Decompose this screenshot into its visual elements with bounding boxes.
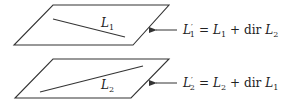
equation-plane-2: L′2=L2+dirL1 bbox=[182, 75, 278, 92]
plane-1: L1 L′1=L1+dirL2 bbox=[14, 5, 278, 45]
line-l1 bbox=[53, 19, 125, 37]
line-l1-label: L1 bbox=[100, 16, 114, 32]
plane-1-parallelogram bbox=[14, 5, 169, 45]
equation-plane-1: L′1=L1+dirL2 bbox=[182, 22, 278, 39]
line-l2-label: L2 bbox=[100, 78, 114, 94]
line-l2 bbox=[40, 66, 143, 92]
plane-2: L2 L′2=L2+dirL1 bbox=[15, 59, 278, 98]
planes-diagram: L1 L′1=L1+dirL2 L2 L′2=L2+dirL1 bbox=[0, 0, 293, 109]
